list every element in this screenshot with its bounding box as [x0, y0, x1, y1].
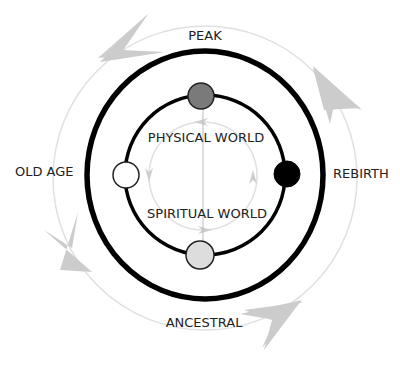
old-age-label: OLD AGE	[15, 164, 74, 179]
ancestral-node	[186, 241, 214, 269]
rebirth-label: REBIRTH	[333, 166, 389, 181]
arrowhead-icon-left	[44, 212, 92, 272]
old-age-node	[113, 162, 139, 188]
peak-node	[188, 83, 214, 109]
rebirth-node	[274, 161, 300, 187]
physical-world-label: PHYSICAL WORLD	[148, 130, 264, 145]
peak-label: PEAK	[188, 28, 222, 43]
life-cycle-diagram: PEAK PHYSICAL WORLD SPIRITUAL WORLD OLD …	[0, 0, 400, 368]
small-arrow-icon-right	[249, 170, 257, 184]
arrowhead-icon-top-left	[100, 14, 165, 62]
outer-faint-ring	[53, 26, 357, 330]
spiritual-world-label: SPIRITUAL WORLD	[147, 206, 267, 221]
ancestral-label: ANCESTRAL	[166, 315, 244, 330]
